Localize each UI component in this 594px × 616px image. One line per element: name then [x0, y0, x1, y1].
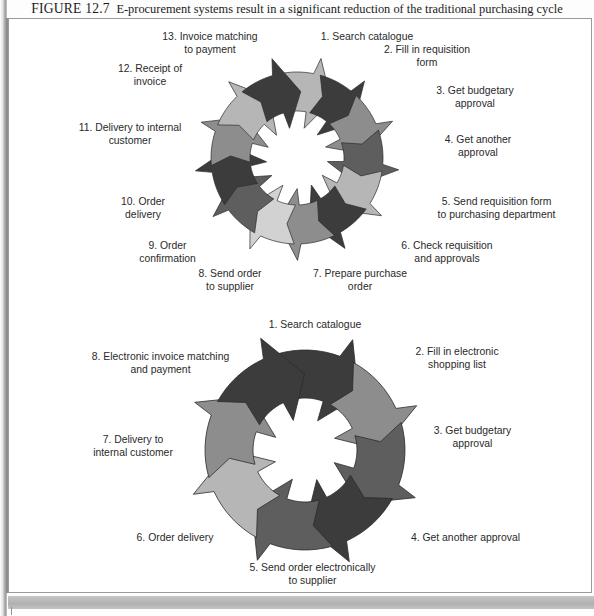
figure-caption: E-procurement systems result in a signif… — [116, 2, 562, 16]
figure-number: FIGURE 12.7 — [31, 1, 109, 16]
figure-title: FIGURE 12.7 E-procurement systems result… — [0, 0, 594, 18]
step-label-8-top: 8. Send order to supplier — [170, 268, 290, 293]
step-label-2-top: 2. Fill in requisition form — [352, 44, 502, 69]
page-footer-tick — [11, 607, 12, 615]
page-footer-band — [8, 596, 594, 609]
step-label-3-bottom: 3. Get budgetary approval — [400, 425, 545, 450]
step-label-9-top: 9. Order confirmation — [105, 240, 230, 265]
step-label-4-bottom: 4. Get another approval — [378, 532, 553, 545]
step-label-13-top: 13. Invoice matching to payment — [130, 31, 290, 56]
step-label-5-top: 5. Send requisition form to purchasing d… — [399, 196, 594, 221]
step-label-1-top: 1. Search catalogue — [292, 31, 442, 44]
step-label-5-bottom: 5. Send order electronically to supplier — [215, 562, 410, 587]
step-label-4-top: 4. Get another approval — [408, 134, 548, 159]
step-label-3-top: 3. Get budgetary approval — [400, 85, 550, 110]
step-label-8-bottom: 8. Electronic invoice matching and payme… — [58, 351, 263, 376]
step-label-7-bottom: 7. Delivery to internal customer — [58, 434, 208, 459]
step-label-12-top: 12. Receipt of invoice — [85, 63, 215, 88]
step-label-6-bottom: 6. Order delivery — [100, 532, 250, 545]
step-label-6-top: 6. Check requisition and approvals — [367, 240, 527, 265]
step-label-2-bottom: 2. Fill in electronic shopping list — [372, 346, 542, 371]
step-label-10-top: 10. Order delivery — [88, 196, 198, 221]
step-label-1-bottom: 1. Search catalogue — [225, 319, 405, 332]
step-label-7-top: 7. Prepare purchase order — [280, 268, 440, 293]
step-label-11-top: 11. Delivery to internal customer — [50, 122, 210, 147]
